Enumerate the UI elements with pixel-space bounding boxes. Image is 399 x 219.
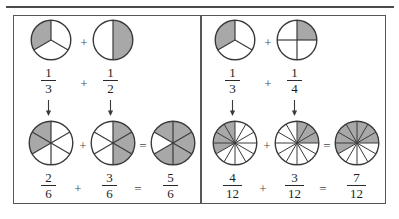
circle-three-sixths xyxy=(89,119,137,167)
fraction-seven-twelfths: 7 12 xyxy=(347,171,366,201)
operator-plus-top-right-fraction: + xyxy=(262,77,274,90)
numerator: 5 xyxy=(165,171,176,184)
operator-plus-top-left: + xyxy=(78,36,90,49)
numerator: 1 xyxy=(289,66,300,79)
numerator: 7 xyxy=(351,171,362,184)
denominator: 12 xyxy=(286,187,303,200)
operator-equals-bottom-left-fraction: = xyxy=(132,182,144,195)
denominator: 6 xyxy=(165,187,176,200)
circle-four-twelfths xyxy=(211,119,259,167)
down-arrow-right-2 xyxy=(290,100,299,117)
numerator: 4 xyxy=(227,171,238,184)
numerator: 3 xyxy=(289,171,300,184)
fraction-three-twelfths: 3 12 xyxy=(285,171,304,201)
numerator: 3 xyxy=(104,171,115,184)
operator-plus-bottom-right: + xyxy=(261,139,273,152)
fraction-five-sixths: 5 6 xyxy=(163,171,178,201)
fraction-one-third-right: 1 3 xyxy=(225,66,240,96)
circle-one-half xyxy=(91,18,135,62)
fraction-one-third-left: 1 3 xyxy=(41,66,56,96)
denominator: 12 xyxy=(348,187,365,200)
operator-plus-top-left-fraction: + xyxy=(78,77,90,90)
denominator: 3 xyxy=(43,82,54,95)
circle-one-third-right xyxy=(213,18,257,62)
circle-three-twelfths xyxy=(273,119,321,167)
circle-one-third-left xyxy=(29,18,73,62)
denominator: 6 xyxy=(43,187,54,200)
operator-plus-bottom-left: + xyxy=(77,139,89,152)
operator-equals-bottom-right: = xyxy=(321,139,333,152)
circle-one-fourth xyxy=(275,18,319,62)
operator-equals-bottom-left: = xyxy=(137,139,149,152)
operator-plus-top-right: + xyxy=(262,36,274,49)
circle-two-sixths xyxy=(27,119,75,167)
denominator: 12 xyxy=(224,187,241,200)
fraction-four-twelfths: 4 12 xyxy=(223,171,242,201)
operator-plus-bottom-left-fraction: + xyxy=(72,182,84,195)
numerator: 1 xyxy=(105,66,116,79)
down-arrow-left-1 xyxy=(44,100,53,117)
numerator: 2 xyxy=(43,171,54,184)
panel-right: + 1 3 + 1 4 xyxy=(201,15,386,204)
circle-five-sixths xyxy=(149,119,197,167)
numerator: 1 xyxy=(227,66,238,79)
fraction-one-half: 1 2 xyxy=(103,66,118,96)
numerator: 1 xyxy=(43,66,54,79)
fraction-three-sixths: 3 6 xyxy=(102,171,117,201)
top-horizontal-rule xyxy=(6,6,394,8)
operator-plus-bottom-right-fraction: + xyxy=(257,182,269,195)
down-arrow-left-2 xyxy=(106,100,115,117)
denominator: 2 xyxy=(105,82,116,95)
fraction-addition-figure: + 1 3 + 1 2 xyxy=(0,0,399,219)
fraction-two-sixths: 2 6 xyxy=(41,171,56,201)
panel-left: + 1 3 + 1 2 xyxy=(13,15,200,204)
operator-equals-bottom-right-fraction: = xyxy=(317,182,329,195)
down-arrow-right-1 xyxy=(228,100,237,117)
denominator: 4 xyxy=(289,82,300,95)
denominator: 6 xyxy=(104,187,115,200)
fraction-one-fourth: 1 4 xyxy=(287,66,302,96)
denominator: 3 xyxy=(227,82,238,95)
circle-seven-twelfths xyxy=(333,119,381,167)
